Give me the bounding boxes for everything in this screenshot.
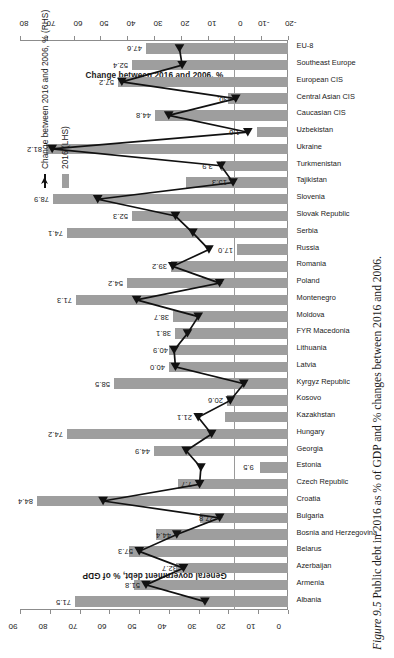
secondary-tick xyxy=(288,36,289,40)
legend-item-bar: 2016 (LHS) xyxy=(60,68,70,188)
category-label-estonia: Estonia xyxy=(297,460,322,469)
secondary-tick-label: -10 xyxy=(250,19,270,28)
point-value-label: 30. xyxy=(211,94,233,103)
category-label-latvia: Latvia xyxy=(297,359,317,368)
primary-tick xyxy=(169,610,170,614)
primary-tick xyxy=(20,610,21,614)
point-value-label: 44.4 xyxy=(152,530,174,539)
category-label-bosnia-and-herzegovina: Bosnia and Herzegovina xyxy=(297,527,378,536)
primary-tick-label: 80 xyxy=(38,622,58,631)
category-label-tajikistan: Tajikistan xyxy=(297,175,327,184)
category-label-eu-8: EU-8 xyxy=(297,41,314,50)
bar-value-label: 57.2 xyxy=(95,77,117,86)
category-label-moldova: Moldova xyxy=(297,309,325,318)
marker-southeast-europe xyxy=(177,61,187,69)
category-label-belarus: Belarus xyxy=(297,544,322,553)
bar-value-label: 38.1 xyxy=(152,329,174,338)
primary-tick xyxy=(80,610,81,614)
marker-russia xyxy=(204,245,214,253)
primary-tick-label: 70 xyxy=(68,622,88,631)
category-label-bulgaria: Bulgaria xyxy=(297,510,324,519)
primary-tick xyxy=(109,610,110,614)
primary-tick-label: 0 xyxy=(277,622,297,631)
secondary-tick xyxy=(181,36,182,40)
marker-moldova xyxy=(193,312,203,320)
bar-value-label: 54.2 xyxy=(104,279,126,288)
marker-kosovo xyxy=(226,396,236,404)
secondary-tick xyxy=(208,36,209,40)
figure-page: General government debt, % of GDP Change… xyxy=(0,0,394,658)
category-label-albania: Albania xyxy=(297,594,322,603)
point-value-label: 27.8 xyxy=(195,513,217,522)
bar-value-label: 40.0 xyxy=(146,362,168,371)
category-label-kosovo: Kosovo xyxy=(297,393,322,402)
point-value-label: 21.1 xyxy=(174,413,196,422)
category-label-caucasian-cis: Caucasian CIS xyxy=(297,108,346,117)
category-label-slovenia: Slovenia xyxy=(297,192,325,201)
primary-tick xyxy=(50,610,51,614)
primary-tick-label: 30 xyxy=(187,622,207,631)
secondary-tick-label: -20 xyxy=(277,19,297,28)
secondary-tick-label: 10 xyxy=(196,19,216,28)
primary-tick xyxy=(139,610,140,614)
secondary-tick-label: 30 xyxy=(143,19,163,28)
bar-value-label: 9.5 xyxy=(237,463,259,472)
bar-value-label: 71.3 xyxy=(53,295,75,304)
primary-tick-label: 60 xyxy=(98,622,118,631)
category-label-european-cis: European CIS xyxy=(297,74,343,83)
category-label-ukraine: Ukraine xyxy=(297,141,322,150)
primary-tick-label: 90 xyxy=(9,622,29,631)
secondary-tick xyxy=(20,36,21,40)
category-label-kazakhstan: Kazakhstan xyxy=(297,410,336,419)
legend: Change between 2016 and 2006, % (RHS) 20… xyxy=(40,68,80,188)
point-value-label: 57.3 xyxy=(115,547,137,556)
bar-value-label: 58.5 xyxy=(91,379,113,388)
category-label-southeast-europe: Southeast Europe xyxy=(297,58,356,67)
point-value-label: 7.7 xyxy=(175,480,197,489)
secondary-tick xyxy=(154,36,155,40)
primary-tick xyxy=(228,610,229,614)
category-label-lithuania: Lithuania xyxy=(297,343,327,352)
category-label-serbia: Serbia xyxy=(297,225,318,234)
legend-label-2016: 2016 (LHS) xyxy=(60,126,70,169)
bar-value-label: 44.9 xyxy=(132,446,154,455)
primary-tick-label: 50 xyxy=(128,622,148,631)
figure: General government debt, % of GDP Change… xyxy=(0,0,394,658)
category-label-kyrgyz-republic: Kyrgyz Republic xyxy=(297,376,350,385)
bar-swatch-icon xyxy=(62,174,69,188)
category-label-hungary: Hungary xyxy=(297,426,325,435)
line-marker-icon xyxy=(40,174,50,188)
point-value-label: 1.6 xyxy=(223,128,245,137)
secondary-tick-label: 80 xyxy=(9,19,29,28)
bar-value-label: 44.8 xyxy=(132,111,154,120)
category-label-poland: Poland xyxy=(297,276,320,285)
point-value-label: 39.2 xyxy=(148,262,170,271)
secondary-tick xyxy=(127,36,128,40)
category-label-azerbaijan: Azerbaijan xyxy=(297,561,332,570)
bar-value-label: 84.4 xyxy=(14,497,36,506)
category-label-romania: Romania xyxy=(297,259,327,268)
secondary-tick xyxy=(100,36,101,40)
legend-item-line: Change between 2016 and 2006, % (RHS) xyxy=(40,68,50,188)
primary-tick xyxy=(288,610,289,614)
point-value-label: 51.8 xyxy=(121,580,143,589)
category-label-slovak-republic: Slovak Republic xyxy=(297,209,350,218)
bar-value-label: 74.2 xyxy=(45,429,67,438)
marker-estonia xyxy=(196,463,206,471)
primary-tick-label: 20 xyxy=(217,622,237,631)
category-label-uzbekistan: Uzbekistan xyxy=(297,125,334,134)
bar-value-label: 52.4 xyxy=(109,61,131,70)
rotated-figure-wrapper: General government debt, % of GDP Change… xyxy=(0,0,394,658)
figure-number: Figure 9.5 xyxy=(371,601,384,650)
category-label-georgia: Georgia xyxy=(297,443,323,452)
bar-value-label: 52.3 xyxy=(110,212,132,221)
secondary-tick-label: 20 xyxy=(169,19,189,28)
secondary-tick-label: 0 xyxy=(223,19,243,28)
category-label-croatia: Croatia xyxy=(297,494,321,503)
category-label-turkmenistan: Turkmenistan xyxy=(297,158,342,167)
category-label-fyr-macedonia: FYR Macedonia xyxy=(297,326,350,335)
secondary-tick xyxy=(74,36,75,40)
category-label-russia: Russia xyxy=(297,242,320,251)
secondary-tick-label: 50 xyxy=(89,19,109,28)
bar-value-label: 38.7 xyxy=(150,312,172,321)
